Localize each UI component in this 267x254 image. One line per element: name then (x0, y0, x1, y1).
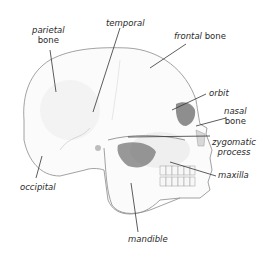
label-parietal-line2: bone (32, 35, 65, 45)
label-parietal: parietal bone (32, 25, 65, 45)
label-zygomatic-line2: process (212, 147, 256, 157)
label-nasal: nasal bone (224, 106, 247, 126)
label-zygomatic: zygomatic process (212, 137, 256, 157)
label-parietal-line1: parietal (32, 25, 65, 35)
label-frontal: frontal bone (174, 31, 226, 41)
label-temporal: temporal (106, 18, 145, 28)
label-mandible: mandible (128, 234, 168, 244)
label-zygomatic-line1: zygomatic (212, 137, 256, 147)
label-orbit: orbit (209, 88, 229, 98)
label-frontal-italic: frontal (174, 31, 202, 41)
label-nasal-line2: bone (224, 116, 247, 126)
label-frontal-plain: bone (202, 31, 226, 41)
label-nasal-line1: nasal (224, 106, 247, 116)
skull-diagram: parietal bone temporal frontal bone orbi… (0, 0, 267, 254)
label-maxilla: maxilla (218, 170, 249, 180)
leader-nasal (196, 118, 226, 126)
label-occipital: occipital (20, 182, 56, 192)
